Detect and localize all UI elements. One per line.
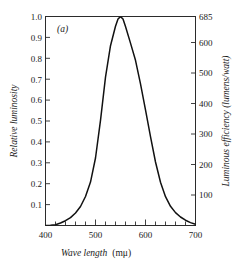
y-tick-label: 1.0	[31, 12, 43, 22]
y-tick-label-right: 685	[199, 12, 213, 22]
plot-frame	[46, 17, 196, 226]
x-tick-label: 500	[89, 230, 103, 240]
x-tick-label: 700	[189, 230, 203, 240]
y-axis-left-labels: 0.1 0.2 0.3 0.4 0.5 0.6 0.7 0.8 0.9 1.0	[31, 12, 43, 210]
x-axis-minor-ticks	[56, 222, 186, 226]
figure-panel: (a) 0.1 0.2 0.3 0.4 0.5 0.6 0.7 0.8 0.9 …	[0, 0, 243, 268]
y-tick-label-right: 500	[199, 68, 213, 78]
y-tick-label-right: 200	[199, 160, 213, 170]
x-axis-title: Wave length(mμ)	[61, 248, 131, 259]
x-tick-label: 400	[39, 230, 53, 240]
luminosity-curve	[46, 17, 196, 226]
y-axis-left-ticks	[46, 17, 51, 226]
y-tick-label-right: 400	[199, 99, 213, 109]
y-tick-label: 0.7	[31, 75, 43, 85]
y-tick-label: 0.5	[31, 116, 43, 126]
y-tick-label: 0.1	[31, 200, 42, 210]
y-tick-label: 0.6	[31, 95, 43, 105]
y-tick-label: 0.4	[31, 137, 43, 147]
panel-label: (a)	[57, 24, 68, 35]
y-tick-label-right: 600	[199, 38, 213, 48]
x-tick-label: 600	[139, 230, 153, 240]
y-tick-label: 0.3	[31, 158, 43, 168]
y-axis-title-right: Luminous efficiency (lumens/watt)	[221, 56, 232, 188]
y-axis-right-ticks	[191, 17, 196, 196]
y-tick-label-right: 300	[199, 129, 213, 139]
y-tick-label: 0.8	[31, 54, 43, 64]
y-tick-label: 0.2	[31, 179, 42, 189]
y-tick-label: 0.9	[31, 33, 43, 43]
chart-svg: (a) 0.1 0.2 0.3 0.4 0.5 0.6 0.7 0.8 0.9 …	[0, 0, 243, 268]
y-axis-title-left: Relative luminosity	[9, 84, 19, 159]
x-axis-major-ticks	[46, 220, 196, 226]
y-axis-right-labels: 100 200 300 400 500 600 685	[199, 12, 213, 201]
y-tick-label-right: 100	[199, 190, 213, 200]
x-axis-labels: 400 500 600 700	[39, 230, 203, 240]
